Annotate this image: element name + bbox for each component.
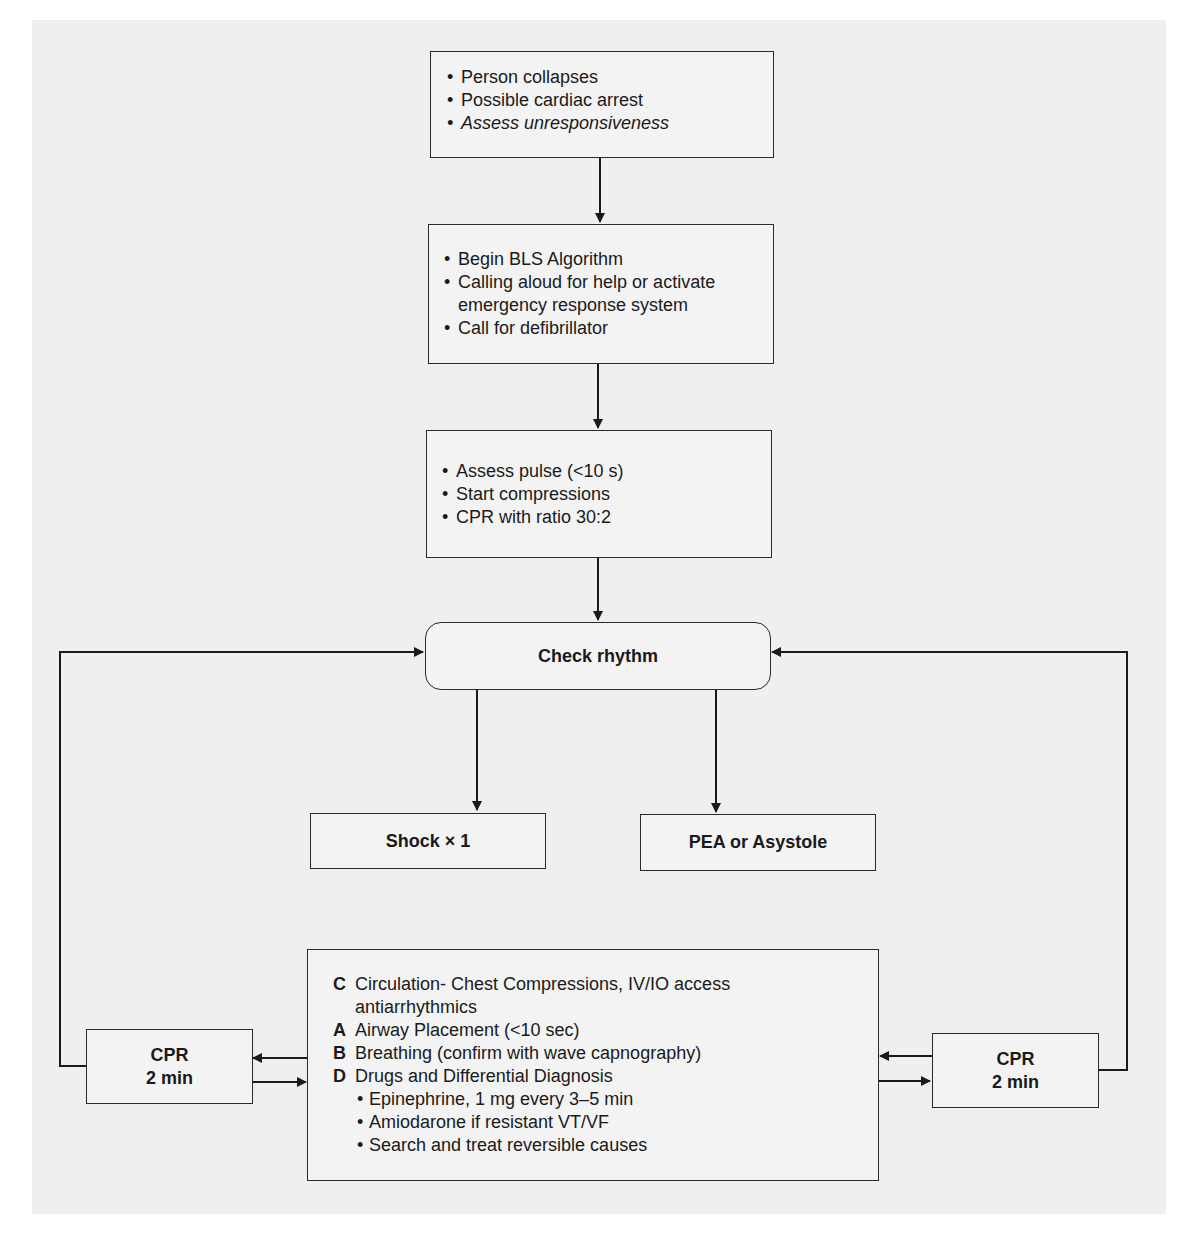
cabd-sub-item: Search and treat reversible causes xyxy=(333,1134,878,1157)
cabd-letter xyxy=(333,996,355,1019)
cabd-text: Drugs and Differential Diagnosis xyxy=(355,1065,613,1088)
node-person-collapses: Person collapses Possible cardiac arrest… xyxy=(430,51,774,158)
start-item-italic: Assess unresponsiveness xyxy=(447,112,773,135)
cabd-row-c-cont: antiarrhythmics xyxy=(333,996,878,1019)
node-check-rhythm: Check rhythm xyxy=(425,622,771,690)
bls-item-continued: emergency response system xyxy=(444,294,773,317)
cpr-left-line1: CPR xyxy=(150,1044,188,1067)
node-cpr-left: CPR 2 min xyxy=(86,1029,253,1104)
cpr-right-line1: CPR xyxy=(996,1048,1034,1071)
assess-item: CPR with ratio 30:2 xyxy=(442,506,771,529)
pea-label: PEA or Asystole xyxy=(689,831,828,854)
cabd-row-d: D Drugs and Differential Diagnosis xyxy=(333,1065,878,1088)
assess-item: Start compressions xyxy=(442,483,771,506)
cabd-letter: B xyxy=(333,1042,355,1065)
cabd-row-b: B Breathing (confirm with wave capnograp… xyxy=(333,1042,878,1065)
start-item: Person collapses xyxy=(447,66,773,89)
start-item: Possible cardiac arrest xyxy=(447,89,773,112)
cabd-text: Breathing (confirm with wave capnography… xyxy=(355,1042,701,1065)
cabd-sub-item: Amiodarone if resistant VT/VF xyxy=(333,1111,878,1134)
node-begin-bls: Begin BLS Algorithm Calling aloud for he… xyxy=(428,224,774,364)
node-assess-pulse: Assess pulse (<10 s) Start compressions … xyxy=(426,430,772,558)
bls-item: Call for defibrillator xyxy=(444,317,773,340)
cabd-letter: C xyxy=(333,973,355,996)
cabd-text: Circulation- Chest Compressions, IV/IO a… xyxy=(355,973,730,996)
cabd-letter: A xyxy=(333,1019,355,1042)
cabd-row-c: C Circulation- Chest Compressions, IV/IO… xyxy=(333,973,878,996)
cabd-text: antiarrhythmics xyxy=(355,996,477,1019)
cpr-left-line2: 2 min xyxy=(146,1067,193,1090)
cabd-text: Airway Placement (<10 sec) xyxy=(355,1019,580,1042)
node-cabd: C Circulation- Chest Compressions, IV/IO… xyxy=(307,949,879,1181)
shock-label: Shock × 1 xyxy=(386,830,471,853)
bls-item: Calling aloud for help or activate xyxy=(444,271,773,294)
cabd-letter: D xyxy=(333,1065,355,1088)
cabd-row-a: A Airway Placement (<10 sec) xyxy=(333,1019,878,1042)
node-shock: Shock × 1 xyxy=(310,813,546,869)
cabd-sub-item: Epinephrine, 1 mg every 3–5 min xyxy=(333,1088,878,1111)
cpr-right-line2: 2 min xyxy=(992,1071,1039,1094)
check-rhythm-label: Check rhythm xyxy=(538,645,658,668)
bls-item: Begin BLS Algorithm xyxy=(444,248,773,271)
node-pea-asystole: PEA or Asystole xyxy=(640,814,876,871)
assess-item: Assess pulse (<10 s) xyxy=(442,460,771,483)
node-cpr-right: CPR 2 min xyxy=(932,1033,1099,1108)
